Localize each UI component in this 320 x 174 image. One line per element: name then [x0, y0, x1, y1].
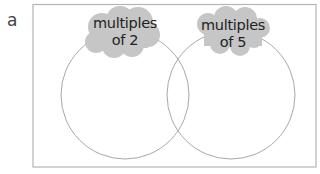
- set-label-line: of 2: [80, 32, 170, 49]
- set-label-line: multiples: [188, 17, 278, 34]
- set-label-multiples-of-5: multiples of 5: [188, 17, 278, 51]
- set-label-line: of 5: [188, 34, 278, 51]
- set-label-multiples-of-2: multiples of 2: [80, 15, 170, 49]
- set-label-line: multiples: [80, 15, 170, 32]
